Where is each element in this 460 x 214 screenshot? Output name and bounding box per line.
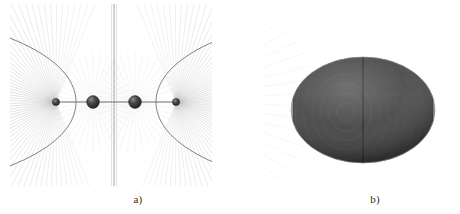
field-line-svg	[10, 4, 212, 186]
sphere-small-right	[172, 98, 179, 105]
panel-a-field-diagram	[10, 4, 212, 186]
ellipsoid-svg	[262, 4, 450, 186]
sphere-large-left	[87, 96, 100, 109]
panel-b-ellipsoid	[262, 4, 450, 186]
panel-a-caption: a)	[118, 193, 158, 206]
figure-root: a)	[0, 0, 460, 214]
panel-b-caption: b)	[355, 193, 395, 206]
sphere-large-right	[129, 96, 142, 109]
sphere-small-left	[52, 98, 59, 105]
ellipsoid-sheen	[291, 57, 435, 163]
